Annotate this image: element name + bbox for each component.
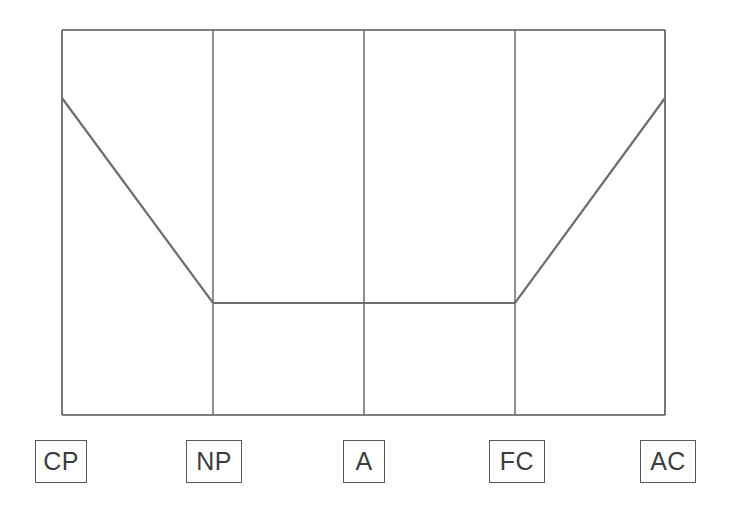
- axis-label-ac-text: AC: [650, 449, 686, 474]
- axis-label-ac[interactable]: AC: [640, 440, 696, 483]
- egogram-screen: CPNPAFCAC: [0, 0, 729, 510]
- axis-label-fc[interactable]: FC: [489, 440, 545, 483]
- axis-label-cp-text: CP: [43, 449, 79, 474]
- egogram-chart: [0, 0, 729, 510]
- axis-label-a-text: A: [355, 449, 372, 474]
- axis-label-np[interactable]: NP: [186, 440, 242, 483]
- axis-label-np-text: NP: [196, 449, 232, 474]
- axis-label-a[interactable]: A: [343, 440, 385, 483]
- axis-label-cp[interactable]: CP: [35, 440, 87, 483]
- axis-label-fc-text: FC: [500, 449, 534, 474]
